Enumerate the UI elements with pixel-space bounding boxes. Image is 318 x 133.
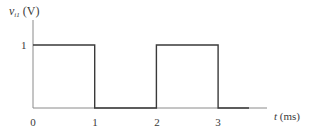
signal-trace [33,45,249,108]
x-tick-1: 1 [92,117,98,128]
square-wave-plot [0,0,318,133]
x-tick-0: 0 [30,117,36,128]
y-tick-1: 1 [21,40,27,51]
y-axis-label: vi1 (V) [9,5,39,19]
x-axis-label: t (ms) [274,111,300,122]
x-tick-3: 3 [215,117,221,128]
x-tick-2: 2 [154,117,160,128]
